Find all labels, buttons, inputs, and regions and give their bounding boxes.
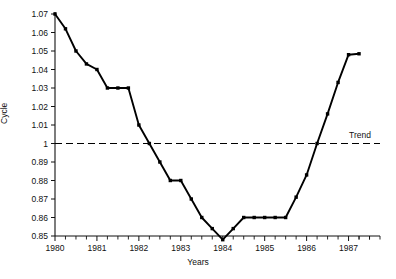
data-point-marker — [95, 68, 98, 71]
data-point-marker — [326, 112, 329, 115]
y-axis-tick-label: 0.86 — [8, 214, 48, 223]
data-point-marker — [211, 227, 214, 230]
data-point-marker — [336, 81, 339, 84]
data-line — [55, 14, 359, 240]
y-axis-tick-label: 0.85 — [8, 232, 48, 241]
data-point-marker — [74, 49, 77, 52]
x-axis-tick-label: 1985 — [245, 244, 285, 253]
y-axis-tick-label: 1.04 — [8, 66, 48, 75]
y-axis-tick-label: 1 — [8, 140, 48, 149]
y-axis-tick-label: 0.88 — [8, 177, 48, 186]
data-point-marker — [315, 142, 318, 145]
data-point-marker — [106, 86, 109, 89]
chart-canvas — [0, 0, 396, 279]
x-axis-tick-label: 1984 — [203, 244, 243, 253]
data-point-marker — [85, 62, 88, 65]
data-point-marker — [169, 179, 172, 182]
data-point-marker — [294, 195, 297, 198]
data-point-marker — [221, 238, 224, 241]
x-axis-tick-label: 1980 — [35, 244, 75, 253]
data-point-marker — [252, 216, 255, 219]
x-axis-tick-label: 1982 — [119, 244, 159, 253]
data-point-marker — [179, 179, 182, 182]
x-axis-tick-label: 1987 — [329, 244, 369, 253]
data-point-marker — [347, 53, 350, 56]
y-axis-tick-label: 1.06 — [8, 29, 48, 38]
y-axis-tick-label: 1.03 — [8, 84, 48, 93]
x-axis-tick-label: 1986 — [287, 244, 327, 253]
data-point-marker — [137, 123, 140, 126]
data-point-marker — [232, 227, 235, 230]
data-point-marker — [190, 197, 193, 200]
data-point-marker — [148, 142, 151, 145]
x-axis-title: Years — [0, 258, 396, 267]
y-axis-tick-label: 1.01 — [8, 121, 48, 130]
data-point-marker — [273, 216, 276, 219]
y-axis-tick-label: 0.89 — [8, 158, 48, 167]
y-axis-tick-label: 0.87 — [8, 195, 48, 204]
data-point-marker — [305, 173, 308, 176]
data-point-marker — [284, 216, 287, 219]
data-point-marker — [53, 12, 56, 15]
y-axis-tick-label: 1.05 — [8, 47, 48, 56]
data-point-marker — [127, 86, 130, 89]
trend-line-label: Trend — [349, 131, 371, 140]
data-point-marker — [263, 216, 266, 219]
data-point-marker — [242, 216, 245, 219]
data-point-marker — [357, 52, 360, 55]
chart-figure: Cycle Years Trend 1.071.061.051.041.031.… — [0, 0, 396, 279]
y-axis-tick-label: 1.02 — [8, 103, 48, 112]
data-point-marker — [64, 27, 67, 30]
data-point-marker — [200, 216, 203, 219]
data-point-marker — [158, 160, 161, 163]
x-axis-tick-label: 1981 — [77, 244, 117, 253]
x-axis-tick-label: 1983 — [161, 244, 201, 253]
data-point-marker — [116, 86, 119, 89]
y-axis-tick-label: 1.07 — [8, 10, 48, 19]
